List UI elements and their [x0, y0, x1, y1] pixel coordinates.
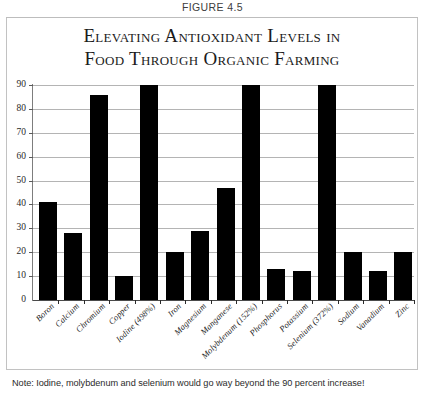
chart-title: Elevating Antioxidant Levels in Food Thr…: [6, 24, 418, 70]
bar: [115, 276, 133, 300]
y-tick-mark-30: [29, 228, 33, 229]
bar: [191, 231, 209, 300]
y-tick-mark-60: [29, 157, 33, 158]
x-tick-mark: [414, 300, 415, 304]
bar: [90, 95, 108, 300]
y-tick-mark-70: [29, 133, 33, 134]
plot-area: [33, 85, 414, 300]
bar: [64, 233, 82, 300]
bar: [166, 252, 184, 300]
x-axis-label: Iron: [165, 301, 183, 319]
chart-note: Note: Iodine, molybdenum and selenium wo…: [12, 378, 418, 388]
y-tick-mark-40: [29, 204, 33, 205]
y-tick-label-30: 30: [2, 223, 26, 233]
bar: [242, 85, 260, 300]
chart-title-line-1: Elevating Antioxidant Levels in: [6, 24, 418, 47]
bar: [267, 269, 285, 300]
y-tick-label-10: 10: [2, 271, 26, 281]
y-tick-label-80: 80: [2, 104, 26, 114]
x-axis-label: Selenium (372%): [285, 301, 335, 351]
bar: [318, 85, 336, 300]
x-axis-label: Boron: [34, 301, 56, 323]
figure-caption: FIGURE 4.5: [0, 1, 425, 13]
bar-series: [33, 85, 414, 300]
y-tick-label-0: 0: [2, 295, 26, 305]
bar: [39, 202, 57, 300]
y-tick-mark-20: [29, 252, 33, 253]
bar: [344, 252, 362, 300]
bar: [394, 252, 412, 300]
y-tick-label-70: 70: [2, 128, 26, 138]
chart-title-line-2: Food Through Organic Farming: [6, 47, 418, 70]
bar: [293, 271, 311, 300]
y-tick-label-90: 90: [2, 80, 26, 90]
y-tick-mark-50: [29, 181, 33, 182]
y-tick-mark-10: [29, 276, 33, 277]
y-tick-label-50: 50: [2, 176, 26, 186]
y-tick-label-60: 60: [2, 152, 26, 162]
bar: [369, 271, 387, 300]
y-tick-label-20: 20: [2, 247, 26, 257]
bar: [140, 85, 158, 300]
x-axis-labels: BoronCalciumChromiumCopperIodine (498%)I…: [33, 301, 414, 371]
y-tick-mark-80: [29, 109, 33, 110]
y-tick-label-40: 40: [2, 199, 26, 209]
bar: [217, 188, 235, 300]
y-tick-mark-90: [29, 85, 33, 86]
x-axis-label: Zinc: [393, 301, 411, 319]
